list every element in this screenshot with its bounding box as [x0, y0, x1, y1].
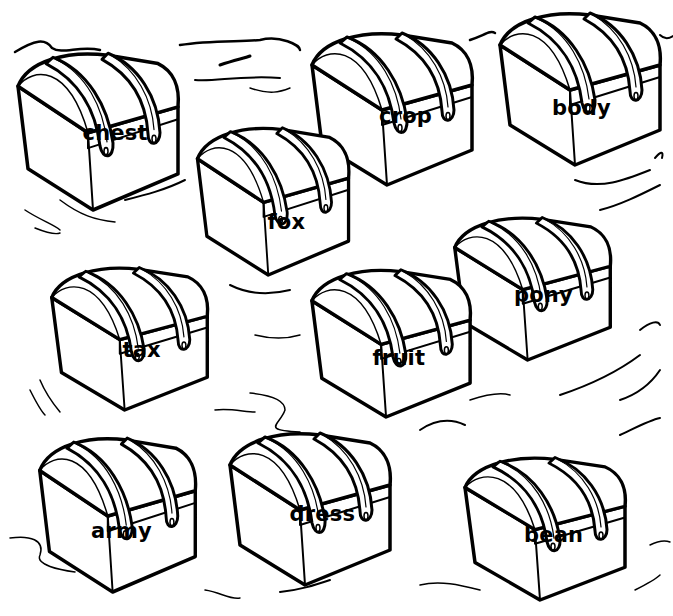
chest-drawing [490, 5, 670, 165]
chest-word-label: chest [83, 121, 148, 145]
chest-body: body [490, 5, 670, 165]
chest-dress: dress [220, 425, 400, 585]
chest-word-label: bean [524, 523, 583, 547]
chest-word-label: pony [514, 283, 573, 307]
chest-tax: tax [42, 260, 217, 410]
chest-drawing [42, 260, 217, 410]
chest-fruit: fruit [302, 262, 480, 417]
chest-drawing [188, 120, 358, 275]
chest-drawing [30, 430, 205, 592]
coloring-worksheet: chest crop b [0, 0, 673, 616]
chest-drawing [302, 262, 480, 417]
chest-word-label: fruit [373, 346, 426, 370]
chest-word-label: dress [290, 502, 356, 526]
chest-word-label: fox [268, 210, 306, 234]
chest-chest: chest [8, 45, 188, 210]
chest-word-label: body [552, 96, 611, 120]
chest-army: army [30, 430, 205, 592]
chest-word-label: tax [123, 338, 161, 362]
chest-bean: bean [455, 450, 635, 600]
chest-word-label: crop [379, 104, 432, 128]
chest-word-label: army [91, 519, 152, 543]
chest-fox: fox [188, 120, 358, 275]
